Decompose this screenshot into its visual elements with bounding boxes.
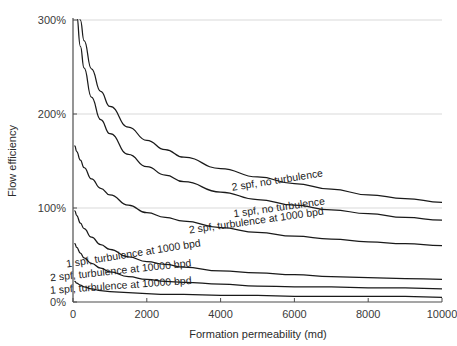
flow-efficiency-chart: 0%100%200%300% 0200040006000800010000 2 … xyxy=(0,0,457,346)
y-tick-label: 0% xyxy=(50,296,66,308)
x-tick-label: 8000 xyxy=(356,308,380,320)
x-tick-label: 4000 xyxy=(208,308,232,320)
x-tick-label: 10000 xyxy=(427,308,457,320)
x-tick-label: 2000 xyxy=(135,308,159,320)
y-tick-label: 100% xyxy=(38,202,66,214)
x-tick-label: 6000 xyxy=(282,308,306,320)
y-tick-label: 200% xyxy=(38,108,66,120)
y-tick-label: 300% xyxy=(38,14,66,26)
chart-svg: 0%100%200%300% 0200040006000800010000 2 … xyxy=(0,0,457,346)
y-axis-title: Flow efficiency xyxy=(6,125,18,197)
x-tick-label: 0 xyxy=(70,308,76,320)
x-axis-title: Formation permeability (md) xyxy=(189,328,327,340)
